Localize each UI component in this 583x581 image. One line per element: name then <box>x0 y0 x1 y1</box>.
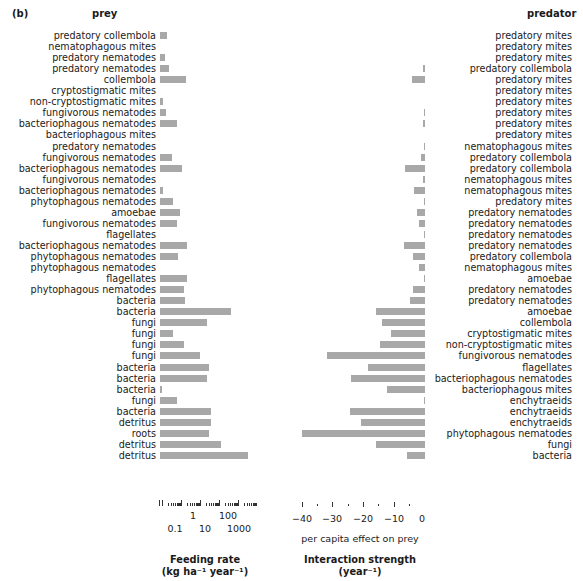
log-tick <box>211 503 212 506</box>
log-tick <box>247 503 248 506</box>
feeding-rate-bar <box>160 154 172 161</box>
log-tick <box>244 503 245 506</box>
interaction-strength-bar <box>350 408 425 415</box>
feeding-rate-bar <box>160 364 209 371</box>
interaction-strength-bar <box>361 419 425 426</box>
interaction-strength-bar <box>424 143 425 150</box>
log-tick <box>168 503 169 506</box>
interaction-strength-bar <box>413 286 425 293</box>
prey-header: prey <box>92 8 117 19</box>
log-tick <box>192 503 193 506</box>
feeding-rate-bar <box>160 120 177 127</box>
feeding-rate-bar <box>160 341 184 348</box>
feeding-rate-bar <box>160 98 163 105</box>
feeding-rate-bar <box>160 319 207 326</box>
log-tick <box>173 503 174 506</box>
log-tick <box>232 503 233 506</box>
feeding-rate-bar <box>160 76 186 83</box>
log-tick <box>171 503 172 506</box>
feeding-rate-bar <box>160 397 177 404</box>
interaction-strength-bar <box>423 176 425 183</box>
log-tick <box>225 503 226 506</box>
interaction-strength-bar <box>410 297 425 304</box>
feeding-rate-bar <box>160 286 184 293</box>
feeding-rate-title: Feeding rate (kg ha⁻¹ year⁻¹) <box>150 554 260 578</box>
interaction-strength-bar <box>413 253 425 260</box>
feeding-rate-bar <box>160 275 187 282</box>
interaction-strength-bar <box>376 308 425 315</box>
feeding-rate-bar <box>160 330 173 337</box>
log-tick <box>213 503 214 506</box>
feeding-rate-bar <box>160 165 182 172</box>
interaction-strength-bar <box>302 430 425 437</box>
feeding-rate-bar <box>160 441 221 448</box>
interaction-strength-bar <box>424 109 425 116</box>
interaction-strength-bar <box>351 375 425 382</box>
feeding-rate-bar <box>160 297 185 304</box>
interaction-strength-bar <box>423 65 425 72</box>
log-tick <box>162 500 163 506</box>
log-tick <box>230 503 231 506</box>
log-tick <box>187 503 188 506</box>
log-tick <box>206 503 207 506</box>
predator-label: bacteria <box>533 449 572 462</box>
interaction-strength-bar <box>424 275 425 282</box>
prey-label: detritus <box>119 449 156 462</box>
interaction-strength-bar <box>387 386 425 393</box>
feeding-rate-bar <box>160 220 177 227</box>
interaction-strength-bar <box>412 76 425 83</box>
log-tick <box>194 503 195 506</box>
interaction-strength-bar <box>391 330 425 337</box>
log-tick <box>249 503 250 506</box>
feeding-rate-bar <box>160 375 207 382</box>
log-tick <box>228 503 229 506</box>
predator-header: predator <box>527 8 576 19</box>
log-tick <box>175 503 176 506</box>
interaction-strength-title: Interaction strength (year⁻¹) <box>300 554 420 578</box>
feeding-rate-bar <box>160 187 163 194</box>
feeding-rate-bar <box>160 109 166 116</box>
interaction-strength-bar <box>368 364 425 371</box>
feeding-rate-bar <box>160 242 187 249</box>
interaction-strength-bar <box>421 154 425 161</box>
interaction-strength-bar <box>419 264 425 271</box>
feeding-rate-bar <box>160 419 211 426</box>
interaction-strength-bar <box>404 242 425 249</box>
interaction-strength-bar <box>380 341 425 348</box>
feeding-rate-bar <box>160 308 231 315</box>
feeding-rate-bar <box>160 408 211 415</box>
interaction-strength-bar <box>405 165 425 172</box>
log-tick <box>190 503 191 506</box>
feeding-rate-bar <box>160 452 248 459</box>
interaction-strength-bar <box>424 198 425 205</box>
interaction-strength-bar <box>376 441 425 448</box>
interaction-strength-bar <box>419 220 425 227</box>
log-tick <box>209 503 210 506</box>
interaction-strength-bar <box>414 187 425 194</box>
feeding-rate-bar <box>160 430 209 437</box>
interaction-strength-bar <box>382 319 425 326</box>
interaction-strength-bar <box>417 209 425 216</box>
interaction-strength-bar <box>424 231 425 238</box>
feeding-rate-bar <box>160 65 169 72</box>
log-tick <box>219 500 220 506</box>
log-tick <box>181 500 182 506</box>
feeding-rate-bar <box>160 386 162 393</box>
feeding-rate-bar <box>160 352 200 359</box>
feeding-rate-bar <box>160 253 178 260</box>
interaction-strength-bar <box>423 120 425 127</box>
log-tick <box>238 500 239 506</box>
feeding-rate-bar <box>160 54 165 61</box>
feeding-rate-bar <box>160 198 173 205</box>
interaction-strength-bar <box>407 452 425 459</box>
feeding-rate-bar <box>160 32 167 39</box>
panel-label: (b) <box>12 8 28 19</box>
log-tick <box>200 500 201 506</box>
interaction-strength-bar <box>327 352 425 359</box>
log-tick <box>256 503 257 506</box>
log-tick <box>251 503 252 506</box>
interaction-strength-bar <box>424 397 425 404</box>
feeding-rate-bar <box>160 209 180 216</box>
